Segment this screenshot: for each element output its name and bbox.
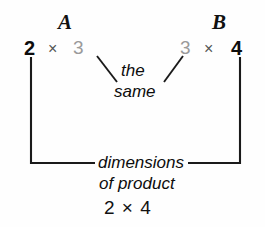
right-bracket-line: [188, 57, 240, 163]
matrix-b-times-icon: ×: [204, 41, 213, 57]
figure-canvas: A B 2 × 3 3 × 4 the same dimensions of p…: [0, 0, 265, 227]
matrix-b-rows: 3: [180, 38, 191, 57]
left-bracket-line: [31, 57, 95, 163]
product-dims-note-line2: of product: [99, 175, 175, 192]
matrix-b-label: B: [212, 12, 226, 33]
inner-dim-pointer-right: [164, 56, 183, 82]
inner-dim-note-line1: the: [121, 62, 145, 79]
matrix-a-rows: 2: [24, 38, 35, 58]
inner-dim-note-line2: same: [114, 83, 156, 100]
matrix-a-times-icon: ×: [48, 41, 57, 57]
matrix-b-cols: 4: [231, 38, 242, 58]
inner-dim-pointer-left: [97, 56, 117, 82]
product-dims-note-line1: dimensions: [98, 154, 184, 171]
matrix-a-label: A: [58, 12, 72, 33]
result-expression: 2 × 4: [104, 198, 152, 217]
matrix-a-cols: 3: [73, 38, 84, 57]
